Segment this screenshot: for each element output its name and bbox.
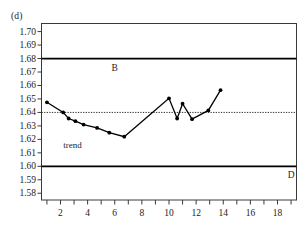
x-axis-tick-label: 2	[58, 208, 63, 218]
x-axis-tick-label: 4	[85, 208, 90, 218]
x-axis-tick-labels: 24681012141618	[0, 0, 307, 232]
annotation-trend: trend	[63, 140, 82, 150]
x-axis-tick-label: 14	[219, 208, 229, 218]
x-axis-tick-label: 18	[273, 208, 283, 218]
x-axis-tick-label: 6	[112, 208, 117, 218]
x-axis-tick-label: 10	[164, 208, 174, 218]
x-axis-tick-label: 8	[139, 208, 144, 218]
chart-panel-d: (d) 1.701.691.681.671.661.651.641.631.62…	[0, 0, 307, 232]
x-axis-tick-label: 16	[246, 208, 256, 218]
reference-line-label-D: D	[288, 170, 295, 180]
x-axis-tick-label: 12	[191, 208, 201, 218]
reference-line-label-B: B	[112, 63, 118, 73]
